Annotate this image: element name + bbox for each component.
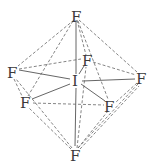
atoms: F F F I F F F F: [7, 8, 146, 165]
atom-f-top: F: [71, 8, 81, 26]
atom-f-front-left: F: [20, 94, 30, 112]
atom-f-right: F: [136, 70, 146, 88]
atom-f-bottom: F: [70, 147, 80, 165]
atom-f-front-right: F: [104, 98, 114, 116]
atom-i-center: I: [72, 72, 78, 90]
if7-diagram: F F F I F F F F: [0, 0, 151, 166]
atom-f-back: F: [82, 52, 92, 70]
atom-f-left: F: [7, 64, 17, 82]
